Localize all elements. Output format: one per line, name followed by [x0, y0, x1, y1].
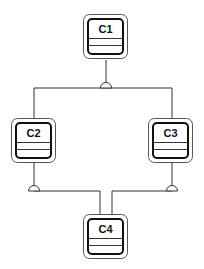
connector-c1-fanout [34, 60, 172, 123]
node-c3-label: C3 [163, 127, 177, 139]
connector-c3-c4 [112, 159, 178, 219]
node-c1-label: C1 [98, 23, 112, 35]
node-c3[interactable]: C3 [149, 119, 193, 163]
node-c2-label: C2 [26, 127, 40, 139]
node-c4[interactable]: C4 [84, 215, 128, 259]
node-c2[interactable]: C2 [12, 119, 56, 163]
junction-c3-icon [167, 186, 178, 192]
junction-c2-icon [29, 186, 40, 192]
node-c1[interactable]: C1 [84, 15, 128, 59]
connector-c2-c4 [29, 159, 101, 219]
diagram-canvas: C1 C2 C3 C4 [0, 0, 204, 269]
junction-c1-icon [101, 83, 112, 89]
node-c4-label: C4 [98, 223, 113, 235]
